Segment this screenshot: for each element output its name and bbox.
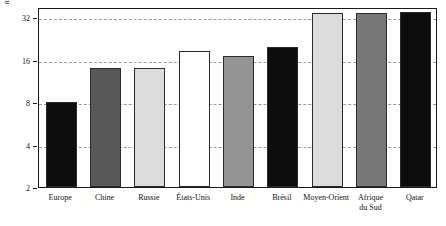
x-tick-label-line: Qatar	[387, 193, 443, 203]
x-tick-label-line: du Sud	[342, 203, 398, 213]
bar	[312, 13, 343, 187]
bar	[90, 68, 121, 187]
y-tick-label: 16	[8, 56, 30, 65]
x-tick-label: Qatar	[387, 193, 443, 203]
y-axis-title-line-2: et celui des 50 % du bas	[11, 0, 19, 4]
bar	[356, 13, 387, 187]
plot-area	[38, 8, 437, 188]
bar	[134, 68, 165, 187]
bar	[223, 56, 254, 187]
bar	[400, 12, 431, 187]
y-tick-mark	[33, 103, 37, 104]
chart-figure: Rapport entre le revenu moyen des 10 % d…	[0, 0, 446, 226]
bar	[46, 102, 77, 187]
y-tick-mark	[33, 146, 37, 147]
y-tick-label: 4	[8, 141, 30, 150]
y-tick-label: 2	[8, 184, 30, 193]
y-tick-label: 8	[8, 99, 30, 108]
bar	[267, 47, 298, 187]
y-axis-title-line-1: Rapport entre le revenu moyen des 10 % d…	[3, 0, 11, 4]
y-tick-mark	[33, 188, 37, 189]
y-tick-mark	[33, 18, 37, 19]
bar	[179, 51, 210, 187]
y-tick-mark	[33, 61, 37, 62]
y-tick-label: 32	[8, 14, 30, 23]
